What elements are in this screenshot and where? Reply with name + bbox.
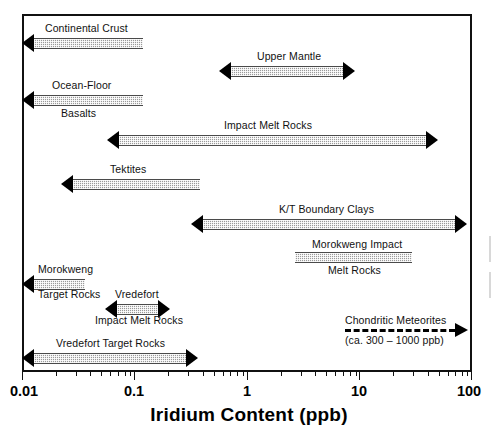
x-tick-minor [76,371,77,376]
scan-artifact [489,236,491,262]
x-tick-minor [101,371,102,376]
x-tick-minor [448,371,449,376]
x-tick-minor [413,371,414,376]
x-tick-minor [90,371,91,376]
x-tick-minor [315,371,316,376]
x-tick-major-0.01 [22,371,23,380]
x-tick-minor [335,371,336,376]
x-tick-minor [168,371,169,376]
x-tick-minor [467,371,468,376]
x-tick-minor [462,371,463,376]
x-tick-major-0.1 [134,371,135,380]
scan-artifact [489,272,491,298]
x-tick-minor [110,371,111,376]
x-tick-major-1 [247,371,248,380]
x-tick-minor [230,371,231,376]
x-tick-minor [343,371,344,376]
x-tick-minor [203,371,204,376]
x-tick-minor [214,371,215,376]
x-tick-minor [243,371,244,376]
x-tick-label-100: 100 [457,383,481,399]
x-tick-minor [56,371,57,376]
x-tick-minor [188,371,189,376]
plot-frame [22,14,472,372]
x-tick-label-10: 10 [351,383,367,399]
x-tick-minor [455,371,456,376]
x-tick-minor [439,371,440,376]
x-tick-label-0.1: 0.1 [124,383,144,399]
x-tick-minor [301,371,302,376]
x-tick-minor [350,371,351,376]
x-tick-minor [393,371,394,376]
x-tick-minor [130,371,131,376]
x-tick-minor [118,371,119,376]
x-tick-major-10 [359,371,360,380]
x-tick-minor [125,371,126,376]
x-tick-minor [326,371,327,376]
x-tick-minor [281,371,282,376]
x-tick-label-1: 1 [243,383,251,399]
x-tick-minor [428,371,429,376]
x-tick-minor [223,371,224,376]
x-tick-major-100 [471,371,472,380]
x-tick-minor [356,371,357,376]
x-tick-label-0.01: 0.01 [10,383,38,399]
x-tick-minor [237,371,238,376]
iridium-content-chart: Continental Crust Upper Mantle Ocean-Flo… [0,0,498,441]
x-axis-title: Iridium Content (ppb) [0,404,498,426]
